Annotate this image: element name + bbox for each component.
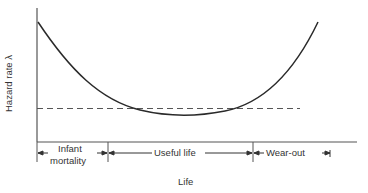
region-label-useful-life: Useful life: [154, 147, 196, 158]
region-label-wear-out: Wear-out: [266, 147, 305, 158]
region-label-mortality: mortality: [50, 155, 86, 166]
x-axis-label: Life: [178, 176, 193, 187]
y-axis-label: Hazard rate λ: [3, 55, 14, 112]
region-label-infant: Infant: [58, 143, 82, 154]
hazard-curve: [38, 22, 318, 115]
